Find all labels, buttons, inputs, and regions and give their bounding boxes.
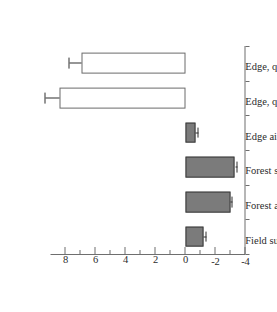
- category-tick: [245, 115, 249, 116]
- category-tick: [245, 185, 249, 186]
- value-axis-line: [50, 254, 245, 255]
- rotated-figure: -4-202468 Edge, qamaniq shadeEdge, qaman…: [0, 0, 277, 312]
- error-bar: [46, 97, 60, 98]
- chart-figure: -4-202468 Edge, qamaniq shadeEdge, qaman…: [0, 0, 277, 312]
- value-tick-label--4: -4: [241, 257, 250, 268]
- bar-slot: [50, 150, 245, 185]
- category-label-edge-qamaniq-shade: Edge, qamaniq shade: [245, 62, 277, 73]
- value-tick-label-8: 8: [62, 255, 67, 266]
- bar-field-surface[interactable]: [185, 226, 203, 247]
- bar-slot: [50, 185, 245, 220]
- bar-series: [50, 46, 245, 254]
- error-bar-cap: [45, 93, 46, 104]
- category-tick: [245, 219, 249, 220]
- bar-edge-air[interactable]: [185, 122, 195, 143]
- bar-edge-qamaniq-sun[interactable]: [59, 88, 185, 109]
- plot-area: -4-202468: [50, 46, 245, 254]
- value-tick-label-6: 6: [92, 255, 97, 266]
- bar-forest-air[interactable]: [185, 192, 230, 213]
- value-tick-label--2: -2: [211, 257, 220, 268]
- bar-edge-qamaniq-shade[interactable]: [82, 53, 186, 74]
- category-tick: [245, 46, 249, 47]
- category-label-edge-qamaniq-sun: Edge, qamaniq sun: [245, 97, 277, 108]
- bar-slot: [50, 219, 245, 254]
- bar-slot: [50, 115, 245, 150]
- category-tick: [245, 254, 249, 255]
- bar-slot: [50, 46, 245, 81]
- category-label-field-surface: Field surface: [245, 235, 277, 246]
- category-label-edge-air: Edge air: [245, 131, 277, 142]
- error-bar-cap: [197, 127, 198, 138]
- value-tick-label-0: 0: [182, 255, 187, 266]
- category-tick: [245, 81, 249, 82]
- error-bar-cap: [205, 231, 206, 242]
- bar-slot: [50, 81, 245, 116]
- error-bar-cap: [68, 58, 69, 69]
- category-label-forest-air: Forest air: [245, 201, 277, 212]
- error-bar-cap: [231, 197, 232, 208]
- error-bar: [69, 63, 82, 64]
- category-label-forest-surface: Forest surface: [245, 166, 277, 177]
- category-tick: [245, 150, 249, 151]
- bar-forest-surface[interactable]: [185, 157, 235, 178]
- error-bar-cap: [236, 162, 237, 173]
- value-tick-label-4: 4: [122, 255, 127, 266]
- value-tick-label-2: 2: [152, 255, 157, 266]
